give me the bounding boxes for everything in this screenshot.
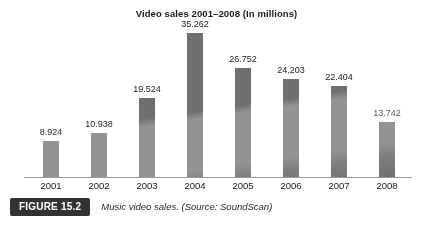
bar-value-label-2004: 35.262 (165, 19, 225, 29)
x-tick-2006: 2006 (267, 180, 315, 191)
figure-container: Video sales 2001–2008 (In millions) 8.92… (0, 0, 433, 226)
bar-2005 (235, 68, 251, 178)
chart-plot-area: 8.92410.93819.52435.26226.75224.20322.40… (27, 22, 407, 178)
x-tick-2007: 2007 (315, 180, 363, 191)
bar-value-label-2007: 22.404 (309, 72, 369, 82)
bar-group: 22.404 (315, 22, 363, 178)
chart-title: Video sales 2001–2008 (In millions) (0, 8, 433, 19)
bar-2003 (139, 98, 155, 178)
bar-2004 (187, 33, 203, 178)
bar-group: 35.262 (171, 22, 219, 178)
bar-group: 26.752 (219, 22, 267, 178)
bar-group: 8.924 (27, 22, 75, 178)
x-tick-2001: 2001 (27, 180, 75, 191)
figure-number-badge: FIGURE 15.2 (10, 198, 90, 216)
bar-value-label-2005: 26.752 (213, 54, 273, 64)
x-tick-2004: 2004 (171, 180, 219, 191)
x-tick-2005: 2005 (219, 180, 267, 191)
bar-group: 10.938 (75, 22, 123, 178)
x-axis-tick-labels: 20012002200320042005200620072008 (27, 180, 407, 196)
bar-group: 24.203 (267, 22, 315, 178)
bar-group: 19.524 (123, 22, 171, 178)
bar-2006 (283, 79, 299, 178)
bar-value-label-2002: 10.938 (69, 119, 129, 129)
bar-2002 (91, 133, 107, 178)
x-tick-2002: 2002 (75, 180, 123, 191)
x-tick-2008: 2008 (363, 180, 411, 191)
x-tick-2003: 2003 (123, 180, 171, 191)
figure-caption-text: Music video sales. (Source: SoundScan) (101, 201, 272, 212)
bar-2008 (379, 122, 395, 178)
figure-caption-row: FIGURE 15.2 Music video sales. (Source: … (10, 197, 272, 216)
bar-2007 (331, 86, 347, 178)
bar-value-label-2008: 13.742 (357, 108, 417, 118)
bar-group: 13.742 (363, 22, 411, 178)
x-axis-line (24, 177, 412, 178)
bar-2001 (43, 141, 59, 178)
bar-value-label-2003: 19.524 (117, 84, 177, 94)
